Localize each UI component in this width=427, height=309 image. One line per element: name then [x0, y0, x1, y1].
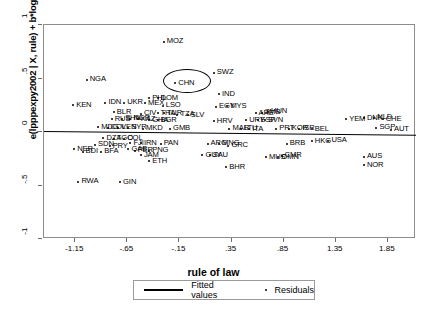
data-point [265, 156, 267, 158]
data-point [144, 102, 146, 104]
y-tick-label: 0 [20, 121, 29, 143]
data-point-label: BEL [315, 125, 329, 133]
y-tick-label: .5 [20, 67, 29, 89]
legend-item-fitted: Fitted values [134, 280, 239, 300]
data-point-label: USA [331, 136, 346, 144]
data-point [72, 104, 74, 106]
data-point [142, 128, 144, 130]
data-point [311, 140, 313, 142]
data-point [104, 102, 106, 104]
data-point [77, 181, 79, 183]
y-tick-label: -.5 [20, 174, 29, 196]
data-point-label: IND [222, 90, 235, 98]
data-point-label: SYR [131, 123, 146, 131]
data-point [100, 151, 102, 153]
data-point [148, 160, 150, 162]
data-point-label: RWA [81, 177, 98, 185]
data-point [163, 41, 165, 43]
data-point [363, 117, 365, 119]
data-point-label: IDN [108, 98, 121, 106]
data-point [228, 128, 230, 130]
data-point [140, 154, 142, 156]
data-point [73, 148, 75, 150]
data-point [286, 143, 288, 145]
data-point [375, 127, 377, 129]
data-point-label: KEN [76, 101, 91, 109]
data-point [157, 112, 159, 114]
data-point-label: MOZ [167, 37, 184, 45]
data-point [123, 138, 125, 140]
chn-highlight-ellipse [163, 69, 211, 93]
added-variable-plot: e(lpppexpy2002 | X, rule) + b*loghl 1.50… [0, 0, 427, 309]
data-point [255, 112, 257, 114]
data-point-label: BRB [290, 139, 305, 147]
x-tick-label: -.15 [158, 244, 198, 253]
legend-label-residuals: Residuals [274, 285, 314, 295]
data-point-label: AUS [367, 152, 382, 160]
data-point [127, 148, 129, 150]
data-point [218, 143, 220, 145]
data-point-label: GRC [231, 141, 248, 149]
data-point [169, 128, 171, 130]
y-tick-mark [38, 238, 42, 239]
x-tick-mark [335, 238, 336, 242]
data-point [86, 79, 88, 81]
data-point [257, 119, 259, 121]
x-tick-mark [231, 238, 232, 242]
y-tick-label: 1 [20, 14, 29, 36]
data-point [245, 119, 247, 121]
data-point [345, 118, 347, 120]
y-tick-mark [38, 78, 42, 79]
dot-marker-icon [265, 289, 268, 292]
x-tick-label: .85 [263, 244, 303, 253]
data-point-label: BFA [104, 147, 118, 155]
fitted-values-line [44, 131, 416, 136]
data-point [225, 166, 227, 168]
data-point [281, 155, 283, 157]
y-tick-mark [38, 185, 42, 186]
data-point [162, 105, 164, 107]
data-point-label: SWZ [217, 68, 234, 76]
y-tick-mark [38, 24, 42, 25]
data-point [117, 127, 119, 129]
data-point-label: MKD [146, 124, 163, 132]
data-point-label: UKR [127, 98, 143, 106]
data-point-label: GMB [173, 124, 190, 132]
data-point-label: BHR [229, 163, 245, 171]
x-tick-mark [283, 238, 284, 242]
x-tick-mark [74, 238, 75, 242]
data-point [123, 102, 125, 104]
x-tick-mark [387, 238, 388, 242]
x-tick-label: -.65 [106, 244, 146, 253]
x-tick-mark [178, 238, 179, 242]
data-point [218, 93, 220, 95]
line-marker-icon [144, 289, 183, 291]
data-point [213, 120, 215, 122]
data-point [390, 129, 392, 131]
data-point-label: NGA [90, 75, 106, 83]
data-point [264, 119, 266, 121]
data-point [363, 156, 365, 158]
data-point [215, 106, 217, 108]
data-point [134, 150, 136, 152]
data-point-label: GUY [205, 151, 221, 159]
legend: Fitted values Residuals [133, 280, 315, 300]
data-point [157, 119, 159, 121]
data-point [207, 143, 209, 145]
data-point [187, 114, 189, 116]
data-point [288, 128, 290, 130]
x-tick-mark [126, 238, 127, 242]
x-tick-label: 1.35 [315, 244, 355, 253]
data-point [275, 128, 277, 130]
x-tick-label: .35 [211, 244, 251, 253]
data-point-label: GIN [123, 178, 136, 186]
data-point-label: HRV [217, 117, 233, 125]
data-point [107, 127, 109, 129]
chart-title [0, 0, 427, 6]
data-point [82, 151, 84, 153]
data-point-label: BDI [86, 147, 98, 155]
data-point-label: SGP [379, 123, 395, 131]
y-tick-label: -1 [20, 228, 29, 250]
data-point [213, 72, 215, 74]
x-tick-label: 1.85 [367, 244, 407, 253]
